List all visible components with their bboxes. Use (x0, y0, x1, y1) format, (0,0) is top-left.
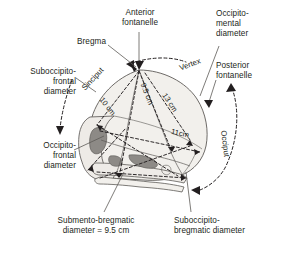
label-bregma: Bregma (40, 37, 106, 47)
label-suboccipito-bregmatic-diameter: Suboccipito- bregmatic diameter (174, 216, 282, 236)
label-anterior-fontanelle: Anterior fontanelle (98, 8, 182, 28)
label-occipito-mental-diameter: Occipito- mental diameter (216, 9, 282, 40)
label-submento-bregmatic-diameter: Submento-bregmatic diameter = 9.5 cm (30, 216, 162, 236)
label-suboccipito-frontal-diameter: Suboccipito- frontal diameter (4, 67, 76, 98)
label-occipito-frontal-diameter: Occipito- frontal diameter (4, 141, 76, 172)
leader-posterior-fontanelle (209, 80, 216, 102)
label-posterior-fontanelle: Posterior fontanelle (216, 61, 282, 81)
leader-bregma (108, 45, 136, 67)
leader-suboccipito-bregmatic (186, 172, 191, 212)
